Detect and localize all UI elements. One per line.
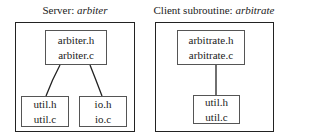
module-util-server: util.h util.c [21,96,69,127]
connector-arbiter-io [90,65,102,96]
file-io-c: io.c [95,112,111,127]
file-arbitrate-h: arbitrate.h [189,33,234,48]
file-util-c: util.c [34,112,56,127]
file-util-h: util.h [34,97,57,112]
file-arbitrate-c: arbitrate.c [189,48,233,63]
client-title-name: arbitrate [235,4,274,16]
connector-arbiter-util [46,65,60,96]
file-util-h-client: util.h [205,95,228,110]
client-title: Client subroutine: arbitrate [145,4,283,16]
file-io-h: io.h [95,97,112,112]
module-io: io.h io.c [79,96,127,127]
module-arbitrate: arbitrate.h arbitrate.c [177,30,245,65]
file-arbiter-c: arbiter.c [58,48,94,63]
module-util-client: util.h util.c [193,95,240,124]
file-util-c-client: util.c [205,110,227,125]
client-title-prefix: Client subroutine: [153,4,235,16]
module-arbiter: arbiter.h arbiter.c [45,30,107,65]
file-arbiter-h: arbiter.h [58,33,94,48]
